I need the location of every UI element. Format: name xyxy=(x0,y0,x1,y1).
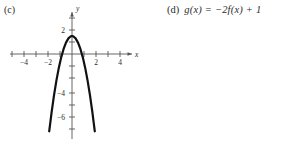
parabola-graph: −4 −2 2 4 2 −4 −6 x y xyxy=(0,0,150,143)
x-tick-label-minus2: −2 xyxy=(44,58,52,67)
graph-svg: −4 −2 2 4 2 −4 −6 x y xyxy=(0,0,150,143)
x-tick-label-4: 4 xyxy=(118,58,122,67)
part-d-formula: g(x) = −2f(x) + 1 xyxy=(184,4,261,15)
part-d-expression: (d)g(x) = −2f(x) + 1 xyxy=(167,4,261,15)
x-tick-label-2: 2 xyxy=(94,58,98,67)
x-axis xyxy=(10,52,132,56)
y-tick-label-minus4: −4 xyxy=(57,89,65,98)
figure-panel: (c) (d)g(x) = −2f(x) + 1 xyxy=(0,0,286,143)
y-tick-label-minus6: −6 xyxy=(57,113,65,122)
y-axis-label: y xyxy=(75,4,80,13)
x-axis-label: x xyxy=(134,50,139,59)
y-tick-label-2: 2 xyxy=(61,26,65,35)
x-tick-label-minus4: −4 xyxy=(20,58,28,67)
part-d-label: (d) xyxy=(167,4,179,15)
y-axis xyxy=(70,12,74,139)
